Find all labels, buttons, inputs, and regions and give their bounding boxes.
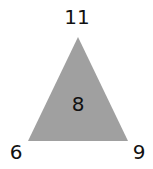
left-number: 6 bbox=[10, 142, 23, 162]
center-number: 8 bbox=[72, 94, 85, 114]
right-number: 9 bbox=[133, 142, 146, 162]
top-number: 11 bbox=[64, 7, 89, 27]
